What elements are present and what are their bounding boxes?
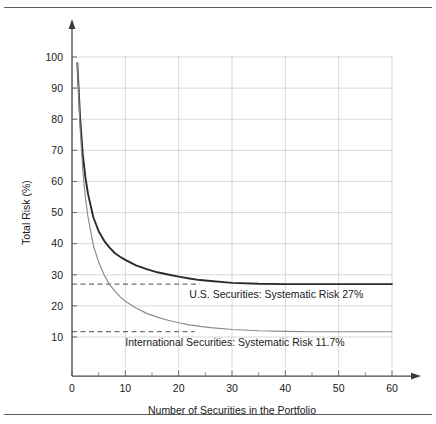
x-axis-tick-label: 50 <box>333 382 345 394</box>
x-axis-tick-label: 0 <box>69 382 75 394</box>
y-axis-tick-label: 90 <box>51 82 63 94</box>
x-axis-tick-label: 20 <box>173 382 185 394</box>
series-curve <box>77 63 392 284</box>
y-axis-tick-label: 40 <box>51 237 63 249</box>
axes <box>69 19 421 380</box>
x-axis-tick-label: 40 <box>279 382 291 394</box>
chart-plot-area: 0102030405060102030405060708090100 U.S. … <box>0 0 436 424</box>
chart-annotation-label: U.S. Securities: Systematic Risk 27% <box>189 288 363 300</box>
y-axis-tick-label: 100 <box>45 51 63 63</box>
y-axis-tick-label: 60 <box>51 175 63 187</box>
chart-annotation-label: International Securities: Systematic Ris… <box>125 336 344 348</box>
y-axis-tick-label: 10 <box>51 331 63 343</box>
y-axis-tick-label: 20 <box>51 300 63 312</box>
x-axis-tick-label: 60 <box>386 382 398 394</box>
y-axis-title: Total Risk (%) <box>20 180 32 245</box>
x-axis-tick-label: 30 <box>226 382 238 394</box>
y-axis-tick-label: 80 <box>51 113 63 125</box>
y-axis-arrow-icon <box>69 19 76 29</box>
y-axis-tick-label: 70 <box>51 144 63 156</box>
x-axis-arrow-icon <box>411 373 421 380</box>
x-axis-tick-label: 10 <box>119 382 131 394</box>
x-axis-title: Number of Securities in the Portfolio <box>148 404 316 416</box>
risk-diversification-chart: 0102030405060102030405060708090100 U.S. … <box>0 0 436 424</box>
grid-lines <box>72 57 392 368</box>
figure-container: 0102030405060102030405060708090100 U.S. … <box>0 0 436 424</box>
y-axis-tick-label: 30 <box>51 269 63 281</box>
y-axis-tick-label: 50 <box>51 206 63 218</box>
